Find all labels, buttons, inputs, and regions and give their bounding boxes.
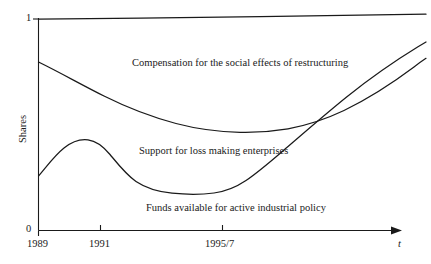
chart-plot-area xyxy=(0,0,431,264)
chart-figure: Shares 1 0 1989 1991 1995/7 t Compensati… xyxy=(0,0,431,264)
y-axis-title: Shares xyxy=(18,115,29,143)
y-axis-label-bottom: 0 xyxy=(26,224,31,235)
x-axis-label-1991: 1991 xyxy=(89,239,110,250)
curve-middle-boundary xyxy=(39,58,427,132)
x-axis-title: t xyxy=(398,239,401,250)
band-label-compensation: Compensation for the social effects of r… xyxy=(132,58,348,69)
band-label-funds: Funds available for active industrial po… xyxy=(146,203,326,214)
curve-total-boundary xyxy=(39,14,427,19)
x-axis-label-1995-7: 1995/7 xyxy=(205,239,234,250)
x-axis-label-1989: 1989 xyxy=(27,239,48,250)
band-label-support: Support for loss making enterprises xyxy=(139,146,288,157)
y-axis-label-top: 1 xyxy=(26,13,31,24)
x-axis-arrow-icon xyxy=(391,227,402,235)
